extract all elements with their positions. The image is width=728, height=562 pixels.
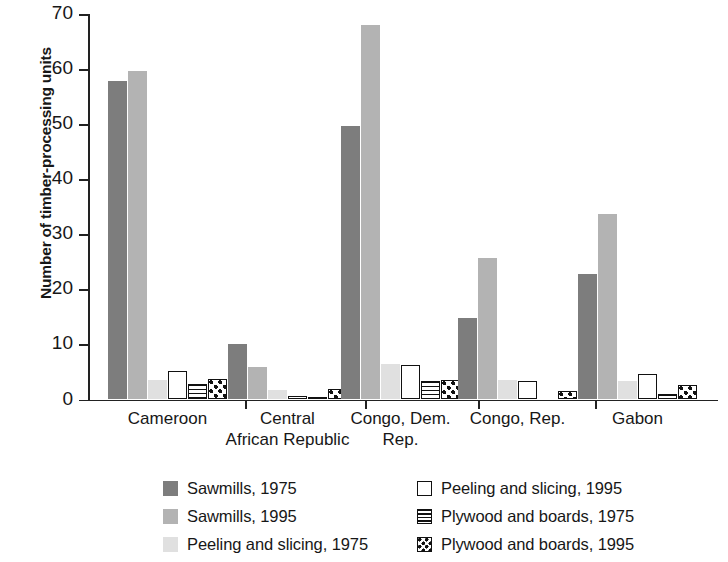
bar-group (578, 13, 697, 399)
bar-peeling-slicing-1975 (381, 364, 400, 400)
bar-plywood-boards-1995 (558, 391, 577, 400)
y-tick-0: 0 (79, 400, 88, 402)
plot-area: 010203040506070 (88, 14, 718, 401)
x-tick (365, 400, 367, 409)
legend-label-sawmills-1975: Sawmills, 1975 (187, 479, 297, 498)
bar-peeling-slicing-1995 (288, 396, 307, 399)
bar-sawmills-1995 (248, 367, 267, 399)
x-tick (595, 400, 597, 409)
legend-item-sawmills-1975: Sawmills, 1975 (163, 474, 413, 502)
y-tick-40: 40 (79, 179, 88, 181)
bar-peeling-slicing-1975 (268, 390, 287, 400)
bar-plywood-boards-1995 (678, 385, 697, 399)
bar-peeling-slicing-1995 (168, 371, 187, 399)
bar-plywood-boards-1975 (421, 381, 440, 400)
bar-sawmills-1975 (578, 274, 597, 400)
bar-sawmills-1995 (128, 71, 147, 399)
bar-chart-figure: Number of timber-processing units 010203… (0, 0, 728, 562)
bar-peeling-slicing-1995 (638, 374, 657, 400)
y-tick-label-0: 0 (62, 388, 73, 410)
legend-swatch-plywood-boards-1995 (417, 537, 432, 552)
y-tick-label-70: 70 (52, 2, 73, 24)
bar-sawmills-1995 (361, 25, 380, 399)
y-axis-line (88, 14, 90, 401)
legend-item-plywood-boards-1995: Plywood and boards, 1995 (417, 530, 687, 558)
legend-label-peeling-slicing-1975: Peeling and slicing, 1975 (187, 535, 368, 554)
bar-group (458, 13, 577, 399)
bar-peeling-slicing-1995 (401, 365, 420, 400)
y-tick-70: 70 (79, 14, 88, 16)
y-tick-10: 10 (79, 344, 88, 346)
legend-item-peeling-slicing-1995: Peeling and slicing, 1995 (417, 474, 687, 502)
bar-sawmills-1995 (598, 214, 617, 399)
category-label-4: Gabon (558, 409, 718, 430)
y-tick-60: 60 (79, 69, 88, 71)
legend-swatch-sawmills-1975 (163, 481, 178, 496)
x-tick (245, 400, 247, 409)
bar-plywood-boards-1975 (308, 397, 327, 400)
bar-peeling-slicing-1995 (518, 381, 537, 400)
legend-label-plywood-boards-1975: Plywood and boards, 1975 (441, 507, 634, 526)
legend-item-sawmills-1995: Sawmills, 1995 (163, 502, 413, 530)
y-tick-20: 20 (79, 289, 88, 291)
bar-group (341, 13, 460, 399)
bar-sawmills-1975 (341, 126, 360, 399)
legend-swatch-sawmills-1995 (163, 509, 178, 524)
y-tick-30: 30 (79, 234, 88, 236)
legend-swatch-peeling-slicing-1995 (417, 481, 432, 496)
y-tick-label-10: 10 (52, 332, 73, 354)
bar-peeling-slicing-1975 (618, 381, 637, 400)
bar-plywood-boards-1975 (658, 394, 677, 400)
y-tick-label-40: 40 (52, 167, 73, 189)
y-tick-label-30: 30 (52, 222, 73, 244)
legend-swatch-plywood-boards-1975 (417, 509, 432, 524)
legend-column-left: Sawmills, 1975Sawmills, 1995Peeling and … (163, 474, 413, 558)
bar-plywood-boards-1995 (208, 379, 227, 399)
legend-column-right: Peeling and slicing, 1995Plywood and boa… (417, 474, 687, 558)
legend-label-plywood-boards-1995: Plywood and boards, 1995 (441, 535, 634, 554)
legend-item-plywood-boards-1975: Plywood and boards, 1975 (417, 502, 687, 530)
bar-sawmills-1975 (228, 344, 247, 400)
legend-item-peeling-slicing-1975: Peeling and slicing, 1975 (163, 530, 413, 558)
y-tick-label-50: 50 (52, 112, 73, 134)
bar-plywood-boards-1975 (188, 384, 207, 399)
bar-sawmills-1975 (108, 81, 127, 399)
bar-group (228, 13, 347, 399)
x-tick (478, 400, 480, 409)
bar-sawmills-1995 (478, 258, 497, 400)
y-tick-label-60: 60 (52, 57, 73, 79)
legend-label-sawmills-1995: Sawmills, 1995 (187, 507, 297, 526)
bar-sawmills-1975 (458, 318, 477, 400)
bar-peeling-slicing-1975 (498, 380, 517, 399)
x-axis-line (88, 400, 718, 402)
y-tick-50: 50 (79, 124, 88, 126)
bar-group (108, 13, 227, 399)
legend-swatch-peeling-slicing-1975 (163, 537, 178, 552)
legend-label-peeling-slicing-1995: Peeling and slicing, 1995 (441, 479, 622, 498)
y-tick-label-20: 20 (52, 277, 73, 299)
bar-peeling-slicing-1975 (148, 380, 167, 400)
